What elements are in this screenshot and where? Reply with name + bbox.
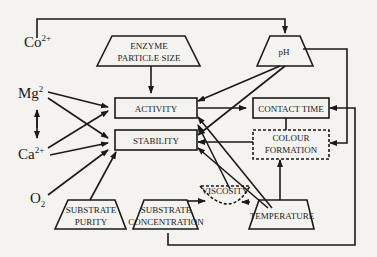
label-temperature: TEMPERATURE	[250, 211, 315, 221]
edge-ph-activity	[198, 66, 280, 101]
label-colour-2: FORMATION	[265, 145, 318, 155]
label-co: Co2+	[24, 33, 51, 50]
label-viscosity: VISCOSITY	[201, 186, 249, 196]
edge-viscosity-activity	[198, 125, 230, 189]
edge-o2-stability	[48, 150, 108, 195]
label-activity: ACTIVITY	[135, 104, 178, 114]
label-contact-time: CONTACT TIME	[258, 104, 324, 114]
label-purity-2: PURITY	[75, 217, 108, 227]
label-purity-1: SUBSTRATE	[66, 205, 117, 215]
edge-ca-stability	[50, 143, 108, 155]
edge-ph-colour	[303, 49, 347, 143]
label-concentration-2: CONCENTRATION	[128, 217, 204, 227]
label-mg: Mg2	[18, 84, 43, 101]
label-colour-1: COLOUR	[272, 133, 309, 143]
label-o2: O2	[30, 190, 45, 209]
edge-ca-activity	[48, 111, 108, 148]
label-ph: pH	[279, 47, 291, 57]
label-enzyme-2: PARTICLE SIZE	[118, 53, 181, 63]
edge-co-ph	[37, 19, 285, 38]
edge-ph-stability	[198, 66, 285, 135]
diagram-canvas: Co2+ Mg2 Ca2+ O2 ENZYME PARTICLE SIZE pH…	[0, 0, 377, 257]
edge-purity-stability	[90, 152, 116, 200]
label-stability: STABILITY	[133, 136, 179, 146]
label-ca: Ca2+	[18, 145, 44, 162]
edge-temperature-stability	[198, 148, 268, 208]
enzyme-factor-diagram: Co2+ Mg2 Ca2+ O2 ENZYME PARTICLE SIZE pH…	[0, 0, 377, 257]
label-concentration-1: SUBSTRATE	[141, 205, 192, 215]
label-enzyme-1: ENZYME	[130, 41, 168, 51]
